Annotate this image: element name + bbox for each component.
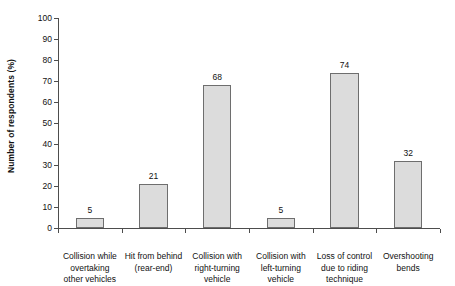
x-axis-category-label-line: Collision while bbox=[63, 251, 117, 263]
x-axis-category-label-line: bends bbox=[383, 263, 434, 275]
y-axis-line bbox=[58, 18, 59, 229]
bar bbox=[139, 184, 168, 228]
y-axis-tick bbox=[54, 102, 58, 103]
x-axis-tick bbox=[58, 229, 59, 233]
x-axis-category-label-line: due to riding bbox=[317, 263, 372, 275]
bar bbox=[394, 161, 423, 228]
y-axis-title: Number of respondents (%) bbox=[2, 0, 20, 232]
x-axis-category-label-line: vehicle bbox=[256, 274, 306, 286]
x-axis-category-label-line: left-turning bbox=[256, 263, 306, 275]
x-axis-tick bbox=[440, 229, 441, 233]
bar-value-label: 5 bbox=[278, 206, 283, 215]
y-axis-tick-label: 70 bbox=[43, 77, 52, 86]
x-axis-category-label-line: other vehicles bbox=[63, 274, 117, 286]
y-axis-tick bbox=[54, 60, 58, 61]
bar-value-label: 21 bbox=[149, 172, 158, 181]
y-axis-tick bbox=[54, 207, 58, 208]
y-axis-tick bbox=[54, 39, 58, 40]
x-axis-category-label-line: Collision with bbox=[256, 251, 306, 263]
bar-value-label: 32 bbox=[403, 149, 412, 158]
x-axis-category-label: Collision withright-turningvehicle bbox=[192, 251, 242, 286]
y-axis-tick bbox=[54, 186, 58, 187]
x-axis-tick bbox=[376, 229, 377, 233]
x-axis-category-label-line: Hit from behind bbox=[125, 251, 183, 263]
y-axis-tick-label: 80 bbox=[43, 56, 52, 65]
x-axis-category-label-line: overtaking bbox=[63, 263, 117, 275]
x-axis-category-label: Hit from behind(rear-end) bbox=[125, 251, 183, 274]
x-axis-category-label-line: (rear-end) bbox=[125, 263, 183, 275]
y-axis-tick-label: 20 bbox=[43, 182, 52, 191]
y-axis-tick-label: 30 bbox=[43, 161, 52, 170]
y-axis-tick-label: 50 bbox=[43, 119, 52, 128]
bar bbox=[76, 218, 105, 229]
y-axis-tick bbox=[54, 144, 58, 145]
y-axis-tick bbox=[54, 81, 58, 82]
bar bbox=[267, 218, 296, 229]
x-axis-tick bbox=[122, 229, 123, 233]
x-axis-category-label: Overshootingbends bbox=[383, 251, 434, 274]
x-axis-category-label-line: Loss of control bbox=[317, 251, 372, 263]
bar-chart: Number of respondents (%) 01020304050607… bbox=[0, 0, 455, 286]
x-axis-category-label-line: Collision with bbox=[192, 251, 242, 263]
y-axis-tick-label: 60 bbox=[43, 98, 52, 107]
y-axis-tick-label: 10 bbox=[43, 203, 52, 212]
x-axis-category-label: Collision whileovertakingother vehicles bbox=[63, 251, 117, 286]
bar-value-label: 74 bbox=[340, 61, 349, 70]
x-axis-tick bbox=[185, 229, 186, 233]
x-axis-category-label-line: Overshooting bbox=[383, 251, 434, 263]
x-axis-category-label: Collision withleft-turningvehicle bbox=[256, 251, 306, 286]
y-axis-tick bbox=[54, 165, 58, 166]
y-axis-tick-label: 40 bbox=[43, 140, 52, 149]
y-axis-tick-label: 100 bbox=[38, 14, 52, 23]
x-axis-category-label-line: vehicle bbox=[192, 274, 242, 286]
y-axis-title-text: Number of respondents (%) bbox=[6, 59, 16, 173]
x-axis-tick bbox=[249, 229, 250, 233]
bar-value-label: 68 bbox=[212, 73, 221, 82]
x-axis-tick bbox=[313, 229, 314, 233]
y-axis-tick bbox=[54, 123, 58, 124]
bar-value-label: 5 bbox=[87, 206, 92, 215]
x-axis-category-label-line: technique bbox=[317, 274, 372, 286]
y-axis-tick bbox=[54, 18, 58, 19]
x-axis-category-label: Loss of controldue to ridingtechnique bbox=[317, 251, 372, 286]
plot-area: 0102030405060708090100 5216857432 Collis… bbox=[58, 18, 440, 228]
y-axis-tick-label: 90 bbox=[43, 35, 52, 44]
y-axis-tick-label: 0 bbox=[47, 224, 52, 233]
bar bbox=[330, 73, 359, 228]
x-axis-category-label-line: right-turning bbox=[192, 263, 242, 275]
bar bbox=[203, 85, 232, 228]
